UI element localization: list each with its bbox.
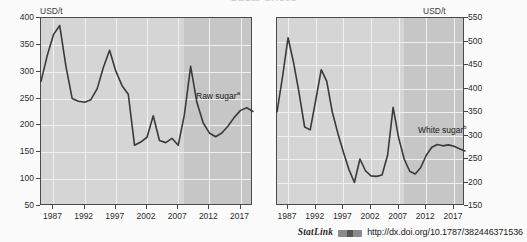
x-axis-tick-label: 2002 [129, 211, 163, 221]
x-axis-tick-mark [287, 205, 288, 209]
y-axis-tick-label: 250 [4, 93, 34, 103]
x-axis-tick-mark [115, 205, 116, 209]
x-axis-tick-label: 2007 [160, 211, 194, 221]
statlink-url-link[interactable]: http://dx.doi.org/10.1787/382446371536 [367, 227, 523, 237]
y-axis-tick-label: 250 [468, 153, 498, 163]
x-axis-tick-label: 2017 [223, 211, 257, 221]
y-axis-tick-mark [464, 64, 468, 65]
x-axis-tick-label: 2017 [436, 211, 470, 221]
plot-area-white-sugar [276, 17, 464, 205]
x-axis-tick-mark [52, 205, 53, 209]
x-axis-tick-mark [208, 205, 209, 209]
series-line-white-sugar [277, 18, 465, 206]
x-axis-tick-label: 1992 [67, 211, 101, 221]
y-axis-tick-label: 400 [4, 12, 34, 22]
y-axis-unit-right: USD/t [423, 6, 446, 16]
y-axis-tick-label: 300 [4, 66, 34, 76]
y-axis-tick-mark [464, 205, 468, 206]
x-axis-tick-mark [177, 205, 178, 209]
y-axis-tick-mark [464, 111, 468, 112]
y-axis-tick-label: 200 [4, 119, 34, 129]
y-axis-tick-label: 500 [468, 36, 498, 46]
statlink-barcode-logo [338, 230, 362, 237]
y-axis-tick-mark [36, 71, 40, 72]
y-axis-tick-mark [36, 44, 40, 45]
y-axis-tick-label: 50 [4, 200, 34, 210]
y-axis-tick-label: 350 [468, 106, 498, 116]
y-axis-tick-mark [36, 151, 40, 152]
x-axis-tick-label: 1987 [35, 211, 69, 221]
x-axis-tick-label: 1997 [98, 211, 132, 221]
y-axis-tick-label: 550 [468, 12, 498, 22]
y-axis-tick-label: 400 [468, 83, 498, 93]
x-axis-tick-mark [315, 205, 316, 209]
series-label-raw-sugar-text: Raw sugar [196, 91, 237, 101]
y-axis-tick-mark [464, 17, 468, 18]
statlink-label: StatLink [298, 227, 333, 237]
series-label-white-sugar-footnote: b [463, 124, 466, 130]
plot-area-raw-sugar [40, 17, 252, 205]
statlink-footer: StatLink http://dx.doi.org/10.1787/38244… [0, 224, 527, 240]
x-axis-tick-mark [240, 205, 241, 209]
y-axis-tick-label: 200 [468, 177, 498, 187]
y-axis-tick-mark [464, 41, 468, 42]
y-axis-unit-left: USD/t [40, 6, 63, 16]
y-axis-tick-label: 350 [4, 39, 34, 49]
series-label-raw-sugar-footnote: a [237, 90, 240, 96]
x-axis-tick-mark [425, 205, 426, 209]
y-axis-tick-mark [464, 182, 468, 183]
y-axis-tick-label: 100 [4, 173, 34, 183]
series-label-white-sugar: White sugarb [418, 124, 467, 135]
x-axis-tick-mark [398, 205, 399, 209]
x-axis-tick-mark [453, 205, 454, 209]
y-axis-tick-mark [36, 178, 40, 179]
y-axis-tick-mark [36, 205, 40, 206]
x-axis-tick-mark [146, 205, 147, 209]
y-axis-tick-mark [36, 17, 40, 18]
series-line-raw-sugar [41, 18, 253, 206]
y-axis-tick-mark [464, 88, 468, 89]
chart-panel-raw-sugar: USD/t 50100150200250300350400 1987199219… [0, 0, 264, 242]
x-axis-tick-label: 2012 [191, 211, 225, 221]
y-axis-tick-mark [36, 98, 40, 99]
y-axis-tick-mark [36, 124, 40, 125]
series-label-white-sugar-text: White sugar [418, 125, 463, 135]
sugar-prices-figure: Sugar prices USD/t 501001502002503003504… [0, 0, 527, 242]
y-axis-tick-label: 450 [468, 59, 498, 69]
y-axis-tick-label: 150 [468, 200, 498, 210]
x-axis-tick-mark [370, 205, 371, 209]
y-axis-tick-label: 300 [468, 130, 498, 140]
series-label-raw-sugar: Raw sugara [196, 90, 240, 101]
y-axis-tick-label: 150 [4, 146, 34, 156]
y-axis-tick-mark [464, 158, 468, 159]
x-axis-tick-mark [84, 205, 85, 209]
x-axis-tick-mark [342, 205, 343, 209]
